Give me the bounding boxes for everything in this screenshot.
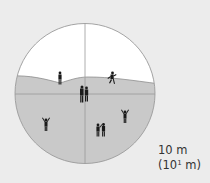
scale-label-power: (101 m) <box>158 157 201 172</box>
scale-prefix: (10 <box>158 158 177 172</box>
scale-label-meters: 10 m <box>158 144 188 157</box>
scale-suffix: m) <box>182 158 201 172</box>
